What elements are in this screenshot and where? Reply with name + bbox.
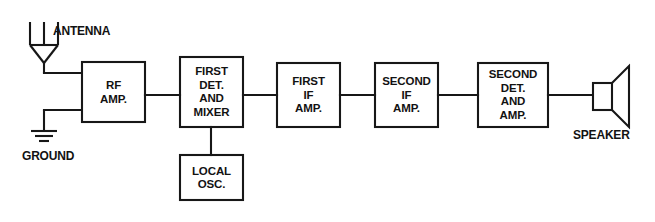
ground-icon <box>31 110 57 141</box>
block-rf-amp <box>82 62 145 122</box>
block-first-det <box>180 57 243 127</box>
block-second-if <box>375 63 438 127</box>
block-second-det <box>478 63 548 127</box>
block-first-if <box>277 63 340 127</box>
speaker-label: SPEAKER <box>573 129 630 142</box>
block-diagram: RF AMP. FIRST DET. AND MIXER FIRST IF AM… <box>0 0 655 222</box>
antenna-label: ANTENNA <box>53 25 110 38</box>
ground-label: GROUND <box>22 150 74 163</box>
block-local-osc <box>180 155 243 200</box>
speaker-icon <box>593 66 629 127</box>
